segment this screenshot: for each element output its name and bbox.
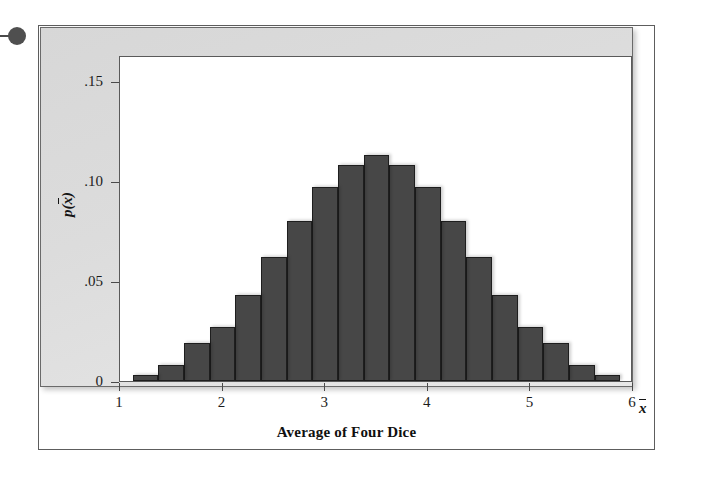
histogram-bar	[518, 327, 544, 381]
histogram-bar	[492, 295, 518, 381]
histogram-bar	[287, 221, 313, 381]
x-axis-tick-label: 2	[207, 394, 237, 411]
plot-area	[119, 56, 632, 382]
histogram-bar	[312, 187, 338, 381]
y-axis-tick	[111, 382, 119, 383]
histogram-bar	[364, 155, 390, 381]
histogram-bar	[389, 165, 415, 381]
histogram-bar	[184, 343, 210, 381]
x-axis-tick	[529, 383, 530, 391]
x-axis-tick-label: 5	[514, 394, 544, 411]
y-axis-tick-label: 0	[63, 373, 103, 390]
y-axis-title: p(x)	[59, 192, 76, 217]
y-axis-tick	[111, 82, 119, 83]
x-axis-tick-label: 1	[104, 394, 134, 411]
histogram-bar	[441, 221, 467, 381]
chart-panel: 0.05.10.15 123456 p(x) x	[40, 27, 633, 387]
histogram-bar	[569, 365, 595, 381]
x-axis-tick-label: 4	[412, 394, 442, 411]
histogram-bar	[595, 375, 621, 381]
histogram-bar	[210, 327, 236, 381]
x-axis-tick	[427, 383, 428, 391]
histogram-bar	[158, 365, 184, 381]
histogram-bar	[338, 165, 364, 381]
y-axis-tick-label: .15	[63, 73, 103, 90]
x-axis-tick-label: 3	[309, 394, 339, 411]
x-axis-title: Average of Four Dice	[39, 424, 654, 441]
x-axis-variable-label: x	[639, 400, 647, 417]
x-axis-tick	[119, 383, 120, 391]
y-axis-tick-label: .05	[63, 273, 103, 290]
y-axis-tick-label: .10	[63, 173, 103, 190]
y-axis-tick	[111, 282, 119, 283]
histogram-bar	[261, 257, 287, 381]
y-axis-tick	[111, 182, 119, 183]
figure-frame: 0.05.10.15 123456 p(x) x Average of Four…	[38, 25, 655, 450]
histogram-bar	[543, 343, 569, 381]
bullet-decoration	[0, 25, 36, 47]
bullet-dot-icon	[8, 27, 26, 45]
x-axis-tick	[324, 383, 325, 391]
histogram-bar	[415, 187, 441, 381]
histogram-bar	[235, 295, 261, 381]
histogram-bars	[120, 57, 631, 381]
x-axis-tick	[222, 383, 223, 391]
histogram-bar	[466, 257, 492, 381]
histogram-bar	[133, 375, 159, 381]
x-axis-tick	[632, 383, 633, 391]
